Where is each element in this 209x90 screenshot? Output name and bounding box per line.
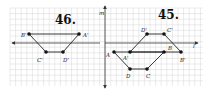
vertex-label: C'	[37, 57, 43, 63]
vertex-label: C'	[167, 27, 173, 33]
vertex-label: D'	[62, 57, 69, 63]
vertex-point	[128, 67, 132, 71]
panel-title: 46.	[55, 13, 76, 27]
vertex-point	[179, 50, 183, 54]
axis-m-label: m	[99, 10, 104, 16]
vertex-label: A	[105, 52, 110, 58]
vertex-label: B'	[20, 32, 27, 38]
vertex-point	[27, 32, 31, 36]
vertex-point	[162, 32, 166, 36]
vertex-label: A'	[82, 32, 88, 38]
vertex-label: D	[125, 73, 131, 79]
panel-title: 45.	[158, 8, 179, 22]
reflection-diagram: m 46.B'A'C'D'45.lAA'BB'D'C'DC	[0, 0, 209, 90]
vertex-point	[128, 50, 132, 54]
vertex-label: D'	[140, 27, 147, 33]
vertex-point	[162, 50, 166, 54]
panel-46: 46.B'A'C'D'	[12, 13, 100, 63]
panel-45: 45.lAA'BB'D'C'DC	[105, 8, 198, 79]
vertex-point	[61, 50, 65, 54]
vertex-label: B'	[179, 57, 186, 63]
vertex-label: A'	[122, 55, 128, 61]
line-l-label: l	[193, 43, 195, 49]
vertex-point	[145, 67, 149, 71]
vertex-label: B	[167, 45, 172, 51]
vertex-point	[77, 32, 81, 36]
vertex-point	[112, 50, 116, 54]
vertex-point	[44, 50, 48, 54]
